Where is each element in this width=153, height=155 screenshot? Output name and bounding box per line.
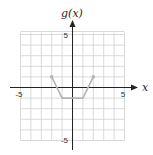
graph-of-g: g(x) x -5 5 5 -5 <box>0 0 153 155</box>
x-tick-min: -5 <box>15 90 23 99</box>
y-axis-arrow-icon <box>70 20 76 27</box>
axes <box>10 20 138 150</box>
endpoint-dot <box>92 75 96 79</box>
y-axis-label: g(x) <box>61 7 83 20</box>
x-axis-label: x <box>142 81 149 94</box>
y-tick-max: 5 <box>64 31 69 40</box>
axis-labels: g(x) x -5 5 5 -5 <box>15 7 148 145</box>
y-tick-min: -5 <box>61 136 69 145</box>
x-axis-arrow-icon <box>131 85 138 91</box>
x-tick-max: 5 <box>121 90 126 99</box>
endpoint-dot <box>50 75 54 79</box>
